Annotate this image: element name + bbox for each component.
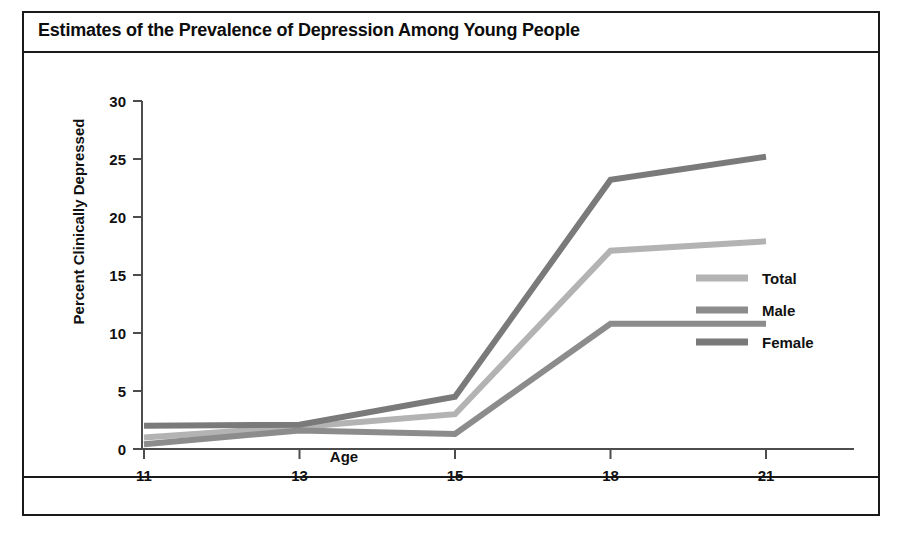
y-tick-label: 10 <box>109 325 126 342</box>
title-band: Estimates of the Prevalence of Depressio… <box>24 13 878 51</box>
y-tick-label: 20 <box>109 209 126 226</box>
series-line-total <box>144 241 766 437</box>
series-line-female <box>144 157 766 426</box>
x-tick-label: 18 <box>602 467 619 483</box>
figure-page: Estimates of the Prevalence of Depressio… <box>0 0 903 535</box>
plot-area: Percent Clinically Depressed Age 0510152… <box>24 53 882 483</box>
page-title: Estimates of the Prevalence of Depressio… <box>38 20 580 41</box>
x-tick-label: 13 <box>291 467 308 483</box>
series-group <box>144 157 766 445</box>
y-tick-label: 25 <box>109 151 126 168</box>
y-tick-group: 051015202530 <box>109 93 142 458</box>
line-chart-svg: 051015202530 1113151821 TotalMaleFemale <box>24 53 882 483</box>
legend: TotalMaleFemale <box>696 270 814 351</box>
y-tick-label: 5 <box>118 383 126 400</box>
y-tick-label: 30 <box>109 93 126 110</box>
legend-label-total: Total <box>762 270 797 287</box>
y-tick-label: 0 <box>118 441 126 458</box>
x-tick-label: 15 <box>447 467 464 483</box>
x-tick-label: 11 <box>136 467 152 483</box>
x-tick-group: 1113151821 <box>136 449 774 483</box>
x-tick-label: 21 <box>758 467 775 483</box>
legend-label-male: Male <box>762 302 795 319</box>
figure-frame: Estimates of the Prevalence of Depressio… <box>22 11 880 516</box>
legend-label-female: Female <box>762 334 814 351</box>
y-tick-label: 15 <box>109 267 126 284</box>
